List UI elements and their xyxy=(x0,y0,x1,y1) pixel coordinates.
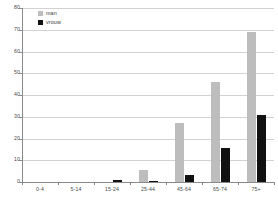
x-axis-tick xyxy=(58,182,59,185)
grid-line xyxy=(22,160,274,161)
x-axis-tick xyxy=(274,182,275,185)
y-axis-tick-label: 70 xyxy=(2,27,20,32)
bar-chart: 01020304050607080 0-45-1415-2425-4445-64… xyxy=(0,0,278,200)
grid-line xyxy=(22,117,274,118)
y-axis-line xyxy=(22,8,23,183)
y-axis-tick-label: 80 xyxy=(2,5,20,10)
bar-vrouw-65-74 xyxy=(221,148,230,182)
x-axis-tick-label: 45-64 xyxy=(177,186,191,192)
y-axis-labels: 01020304050607080 xyxy=(0,0,20,200)
legend-swatch-icon xyxy=(38,20,43,25)
y-axis-tick xyxy=(19,52,22,53)
x-axis-tick xyxy=(22,182,23,185)
y-axis-tick xyxy=(19,73,22,74)
x-axis-line xyxy=(22,182,274,183)
y-axis-tick xyxy=(19,160,22,161)
legend-item-label: vrouw xyxy=(46,19,61,25)
grid-line xyxy=(22,52,274,53)
x-axis-tick-label: 65-74 xyxy=(213,186,227,192)
bar-man-75+ xyxy=(247,32,256,182)
legend-item-vrouw[interactable]: vrouw xyxy=(38,18,98,26)
y-axis-tick xyxy=(19,139,22,140)
plot-area xyxy=(22,8,274,182)
x-axis-tick xyxy=(202,182,203,185)
x-axis-tick-label: 75+ xyxy=(251,186,260,192)
y-axis-tick-label: 0 xyxy=(2,179,20,184)
x-axis-tick xyxy=(238,182,239,185)
bar-man-65-74 xyxy=(211,82,220,182)
legend-item-man[interactable]: man xyxy=(38,9,98,17)
chart-legend: manvrouw xyxy=(38,9,98,27)
grid-line xyxy=(22,95,274,96)
y-axis-tick-label: 50 xyxy=(2,70,20,75)
x-axis-tick xyxy=(166,182,167,185)
x-axis-tick-label: 5-14 xyxy=(71,186,82,192)
x-axis-tick-label: 15-24 xyxy=(105,186,119,192)
x-axis-tick-label: 25-44 xyxy=(141,186,155,192)
x-axis-tick xyxy=(130,182,131,185)
bar-man-25-44 xyxy=(139,170,148,182)
grid-line xyxy=(22,139,274,140)
legend-item-label: man xyxy=(46,10,57,16)
x-axis-labels: 0-45-1415-2425-4445-6465-7475+ xyxy=(22,186,274,198)
y-axis-tick-label: 10 xyxy=(2,157,20,162)
y-axis-tick-label: 20 xyxy=(2,136,20,141)
legend-swatch-icon xyxy=(38,11,43,16)
y-axis-tick xyxy=(19,30,22,31)
grid-line xyxy=(22,73,274,74)
bar-vrouw-75+ xyxy=(257,115,266,182)
y-axis-tick-label: 30 xyxy=(2,114,20,119)
y-axis-tick xyxy=(19,95,22,96)
x-axis-tick xyxy=(94,182,95,185)
y-axis-tick-label: 40 xyxy=(2,92,20,97)
grid-line xyxy=(22,30,274,31)
y-axis-tick xyxy=(19,8,22,9)
bar-man-45-64 xyxy=(175,123,184,182)
y-axis-tick xyxy=(19,117,22,118)
x-axis-tick-label: 0-4 xyxy=(36,186,44,192)
y-axis-tick-label: 60 xyxy=(2,49,20,54)
